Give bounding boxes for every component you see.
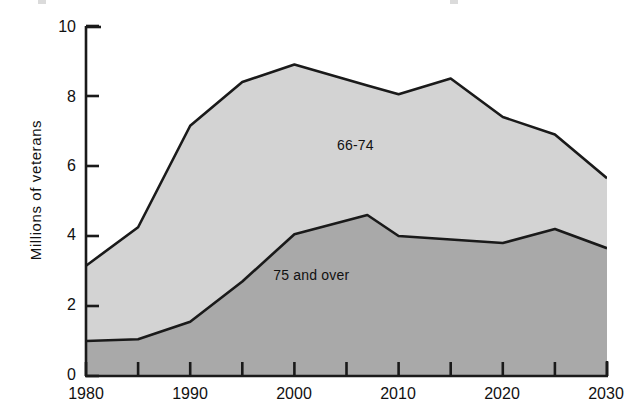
veterans-age-area-chart: Millions of veterans 10 8 6 4 2 0 1980 1… <box>0 0 636 410</box>
plot-area <box>0 0 636 410</box>
series-label-75-and-over: 75 and over <box>273 267 349 283</box>
series-label-66-74: 66-74 <box>337 137 374 153</box>
